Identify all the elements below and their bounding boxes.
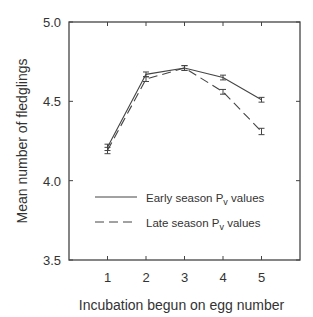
x-axis-label: Incubation begun on egg number	[79, 297, 285, 313]
legend-label-late: Late season Pv values	[146, 217, 261, 232]
line-chart: 3.54.04.55.012345Incubation begun on egg…	[0, 0, 313, 317]
y-tick-label: 4.5	[43, 94, 61, 109]
legend-label-early: Early season Pv values	[146, 192, 265, 207]
x-tick-label: 5	[258, 270, 265, 285]
chart: 3.54.04.55.012345Incubation begun on egg…	[0, 0, 313, 317]
x-tick-label: 4	[219, 270, 226, 285]
x-tick-label: 2	[142, 270, 149, 285]
x-tick-label: 1	[104, 270, 111, 285]
y-tick-label: 4.0	[43, 174, 61, 189]
x-tick-label: 3	[181, 270, 188, 285]
series-late-line	[108, 68, 262, 151]
y-tick-label: 3.5	[43, 253, 61, 268]
y-axis-label: Mean number of fledglings	[14, 59, 30, 224]
y-tick-label: 5.0	[43, 15, 61, 30]
